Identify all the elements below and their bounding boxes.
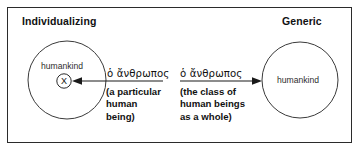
left-gloss-line-2: human [106, 98, 161, 110]
heading-generic: Generic [282, 16, 322, 27]
right-gloss: (the class of human beings as a whole) [180, 86, 245, 123]
diagram-root: Individualizing Generic humankind humank… [0, 0, 363, 154]
right-gloss-line-2: human beings [180, 98, 245, 110]
right-circle-label: humankind [277, 76, 319, 85]
left-circle-label: humankind [41, 62, 83, 71]
left-greek-phrase: ὁ ἄνθρωπος [107, 68, 169, 79]
particular-instance-marker: X [57, 74, 71, 88]
right-gloss-line-1: (the class of [180, 86, 245, 98]
left-gloss-line-1: (a particular [106, 86, 161, 98]
right-gloss-line-3: as a whole) [180, 111, 245, 123]
heading-individualizing: Individualizing [22, 16, 96, 27]
right-greek-phrase: ὁ ἄνθρωπος [180, 68, 242, 79]
left-gloss-line-3: being) [106, 111, 161, 123]
left-gloss: (a particular human being) [106, 86, 161, 123]
